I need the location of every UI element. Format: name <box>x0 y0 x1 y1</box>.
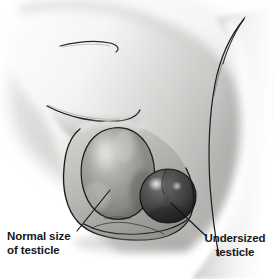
label-normal-size-of-testicle: Normal size of testicle <box>7 230 70 257</box>
label-undersized-testicle: Undersized testicle <box>199 232 271 259</box>
label-normal-line1: Normal size <box>7 230 70 244</box>
label-normal-line2: of testicle <box>7 244 70 258</box>
cast-shadow <box>74 234 190 252</box>
label-undersized-line2: testicle <box>199 246 271 260</box>
label-undersized-line1: Undersized <box>199 232 271 246</box>
illustration-figure: Normal size of testicle Undersized testi… <box>0 0 274 279</box>
